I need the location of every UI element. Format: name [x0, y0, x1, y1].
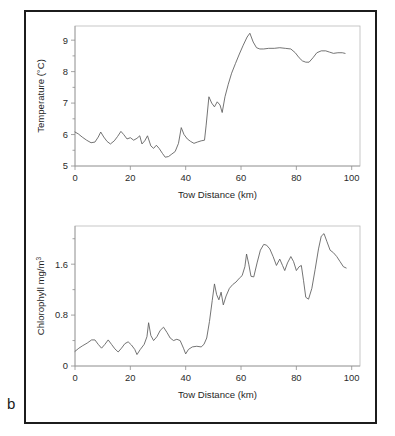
- y-tick-label: 1.6: [55, 259, 68, 270]
- y-tick-label: 7: [63, 97, 68, 108]
- temperature-chart-svg: 56789020406080100Tow Distance (km)Temper…: [30, 14, 375, 218]
- y-tick-label: 6: [63, 129, 68, 140]
- x-tick-label: 20: [125, 172, 135, 183]
- x-tick-label: 40: [180, 172, 190, 183]
- x-tick-label: 0: [72, 372, 77, 383]
- x-tick-label: 40: [180, 372, 190, 383]
- y-tick-label: 0: [63, 360, 68, 371]
- x-tick-label: 60: [236, 372, 246, 383]
- y-axis-title: Chlorophyll mg/m3: [35, 257, 46, 336]
- chlorophyll-chart: 00.81.6020406080100Tow Distance (km)Chlo…: [30, 218, 375, 416]
- data-series-line: [75, 33, 345, 157]
- x-axis-title: Tow Distance (km): [178, 389, 257, 400]
- data-series-line: [75, 234, 346, 355]
- x-tick-label: 80: [291, 172, 301, 183]
- y-tick-label: 5: [63, 160, 68, 171]
- x-axis-title: Tow Distance (km): [178, 189, 257, 200]
- temperature-chart: 56789020406080100Tow Distance (km)Temper…: [30, 14, 375, 218]
- figure-root: b 56789020406080100Tow Distance (km)Temp…: [0, 0, 395, 436]
- x-tick-label: 60: [236, 172, 246, 183]
- y-tick-label: 8: [63, 66, 68, 77]
- x-tick-label: 80: [291, 372, 301, 383]
- y-tick-label: 9: [63, 35, 68, 46]
- chlorophyll-chart-svg: 00.81.6020406080100Tow Distance (km)Chlo…: [30, 218, 375, 416]
- x-tick-label: 20: [125, 372, 135, 383]
- y-axis-title-superscript: 3: [35, 257, 42, 261]
- x-tick-label: 100: [344, 372, 360, 383]
- x-tick-label: 0: [72, 172, 77, 183]
- y-tick-label: 0.8: [55, 309, 68, 320]
- y-axis-title: Temperature (°C): [35, 59, 46, 133]
- plot-frame: [75, 26, 360, 166]
- panel-label-b: b: [7, 396, 15, 411]
- x-tick-label: 100: [344, 172, 360, 183]
